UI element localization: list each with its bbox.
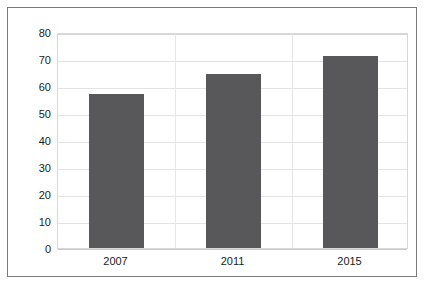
y-tick-label-0: 0 [11,244,51,255]
y-tick-label-60: 60 [11,82,51,93]
x-axis-tick-labels: 200720112015 [57,254,408,274]
gridline-0 [58,249,407,250]
bar-2007[interactable] [89,94,144,248]
x-tick-label-2011: 2011 [221,254,245,268]
figure-frame-border: 01020304050607080 200720112015 [7,7,417,277]
y-tick-label-30: 30 [11,163,51,174]
bar-chart-figure: 01020304050607080 200720112015 [0,0,425,285]
bar-2011[interactable] [206,74,261,248]
y-tick-label-10: 10 [11,217,51,228]
bar-2015[interactable] [323,56,378,248]
vertical-gridline-2 [292,34,293,248]
y-tick-label-40: 40 [11,136,51,147]
y-tick-label-20: 20 [11,190,51,201]
x-tick-label-2007: 2007 [103,254,127,268]
y-tick-label-80: 80 [11,28,51,39]
y-tick-label-70: 70 [11,55,51,66]
y-axis-tick-labels: 01020304050607080 [8,33,51,249]
y-tick-label-50: 50 [11,109,51,120]
vertical-gridline-1 [175,34,176,248]
gridline-80 [58,34,407,35]
plot-area [57,33,408,249]
x-tick-label-2015: 2015 [337,254,361,268]
